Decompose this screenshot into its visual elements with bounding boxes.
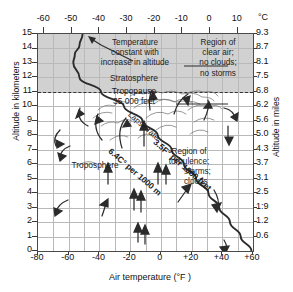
- tick-label-miles: 8.7: [256, 41, 280, 51]
- tick-label-miles: 6.2: [256, 99, 280, 109]
- tick-label-miles: 2.5: [256, 186, 280, 196]
- tick-label-kilometers: 3: [10, 201, 32, 211]
- tick-label-miles: 3.1: [256, 172, 280, 182]
- annotation-clear-air-region: Region of clear air; no clouds; no storm…: [187, 38, 249, 79]
- tick-label-miles: 0.6: [256, 230, 280, 240]
- annotation-stratosphere: Stratosphere: [94, 73, 174, 83]
- annotation-temperature-constant: Temperature constant with increase in al…: [87, 38, 183, 69]
- tick-label-miles: 5.0: [256, 128, 280, 138]
- tick-label-kilometers: 12: [10, 70, 32, 80]
- tick-label-miles: 3.7: [256, 157, 280, 167]
- atmosphere-temperature-chart: °C Altitude in kilometers Altitude in mi…: [0, 0, 293, 292]
- tick-label-miles: 5.6: [256, 114, 280, 124]
- tick-label-miles: 1:9: [256, 201, 280, 211]
- tick-label-celsius: -10: [166, 13, 196, 23]
- tick-label-kilometers: 4: [10, 186, 32, 196]
- tick-label-kilometers: 10: [10, 99, 32, 109]
- tick-label-kilometers: 14: [10, 41, 32, 51]
- tick-label-celsius: -60: [28, 13, 58, 23]
- top-axis-unit-label: °C: [258, 12, 268, 22]
- tick-label-kilometers: 8: [10, 128, 32, 138]
- tick-label-kilometers: 1: [10, 230, 32, 240]
- tick-label-celsius: 0: [194, 13, 224, 23]
- annotation-line-4: no storms: [200, 69, 236, 78]
- tick-label-miles: 6.8: [256, 85, 280, 95]
- annotation-line-2: clear air;: [202, 48, 233, 57]
- bottom-axis-title: Air temperature (°F ): [60, 272, 240, 282]
- tick-label-kilometers: 6: [10, 157, 32, 167]
- tick-label-kilometers: 0: [10, 244, 32, 254]
- annotation-line-3: no clouds;: [199, 58, 236, 67]
- tick-label-celsius: 10: [222, 13, 252, 23]
- tick-label-miles: 8.1: [256, 56, 280, 66]
- tick-label-kilometers: 5: [10, 172, 32, 182]
- tick-label-miles: 4.3: [256, 143, 280, 153]
- annotation-35000-feet: 35,000 feet: [90, 96, 178, 106]
- annotation-line-1: Temperature: [112, 38, 158, 47]
- annotation-line-2: constant with: [111, 48, 159, 57]
- plot-area: Temperature constant with increase in al…: [37, 33, 254, 252]
- tick-label-celsius: -20: [139, 13, 169, 23]
- tick-label-celsius: -50: [56, 13, 86, 23]
- tick-label-celsius: -30: [111, 13, 141, 23]
- annotation-tropopause: Tropopause: [94, 86, 174, 96]
- annotation-line-3: increase in altitude: [101, 58, 169, 67]
- tick-label-miles: 1.2: [256, 215, 280, 225]
- tick-label-kilometers: 15: [10, 27, 32, 37]
- tick-label-kilometers: 2: [10, 215, 32, 225]
- tick-label-kilometers: 13: [10, 56, 32, 66]
- tick-label-celsius: -40: [83, 13, 113, 23]
- tick-label-kilometers: 11: [10, 85, 32, 95]
- tick-label-kilometers: 9: [10, 114, 32, 124]
- tick-label-miles: 9.3: [256, 27, 280, 37]
- tick-label-miles: 7.5: [256, 70, 280, 80]
- tick-label-kilometers: 7: [10, 143, 32, 153]
- annotation-line-1: Region of: [200, 38, 235, 47]
